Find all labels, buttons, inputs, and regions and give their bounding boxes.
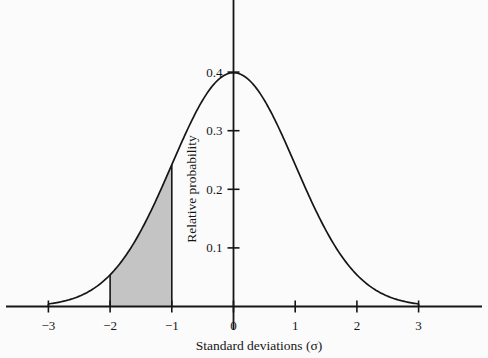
y-tick-label-0: 0.1 bbox=[206, 240, 222, 255]
x-axis-title: Standard deviations (σ) bbox=[196, 338, 323, 353]
y-tick-label-2: 0.3 bbox=[206, 123, 222, 138]
x-tick-label-2: −1 bbox=[165, 318, 179, 333]
x-axis-tick-labels: −3−2−10123 bbox=[41, 318, 421, 333]
x-tick-label-4: 1 bbox=[292, 318, 299, 333]
y-tick-label-3: 0.4 bbox=[206, 65, 223, 80]
y-axis-title: Relative probability bbox=[184, 135, 199, 243]
y-tick-label-1: 0.2 bbox=[206, 182, 222, 197]
x-tick-label-3: 0 bbox=[230, 318, 237, 333]
x-tick-label-6: 3 bbox=[415, 318, 422, 333]
x-tick-label-1: −2 bbox=[103, 318, 117, 333]
normal-distribution-figure: −3−2−10123 0.10.20.30.4 Standard deviati… bbox=[0, 0, 488, 358]
chart-svg: −3−2−10123 0.10.20.30.4 Standard deviati… bbox=[0, 0, 488, 358]
x-tick-label-0: −3 bbox=[41, 318, 55, 333]
y-axis-tick-labels: 0.10.20.30.4 bbox=[206, 65, 223, 256]
x-tick-label-5: 2 bbox=[354, 318, 361, 333]
